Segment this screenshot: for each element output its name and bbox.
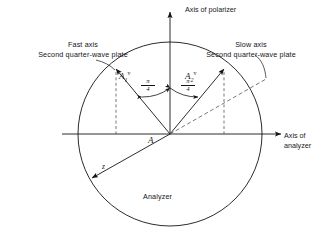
analyzer-label: Analyzer	[143, 192, 172, 201]
angle-label-right: π 4	[181, 78, 195, 93]
angle-right-denominator: 4	[181, 86, 195, 93]
axis-of-analyzer-label-line2: analyzer	[284, 141, 311, 150]
vector-a1-subscript: 1	[125, 77, 128, 83]
vector-a2-superscript: v	[194, 70, 197, 76]
vector-a1-label: A1v	[119, 70, 131, 83]
vector-a2-line	[170, 69, 224, 134]
fast-axis-label-line1: Fast axis	[18, 40, 148, 49]
axis-of-analyzer-label-line1: Axis of	[284, 131, 306, 140]
angle-right-numerator: π	[181, 78, 195, 85]
z-axis-label: z	[102, 163, 105, 171]
fast-axis-label-line2: Second quarter-wave plate	[18, 50, 148, 59]
origin-label: A	[148, 136, 154, 145]
slow-axis-label-line1: Slow axis	[186, 40, 316, 49]
angle-left-numerator: π	[141, 78, 155, 85]
axis-of-polarizer-label: Axis of polarizer	[185, 5, 236, 14]
angle-label-left: π 4	[141, 78, 155, 93]
slow-axis-label-line2: Second quarter-wave plate	[186, 50, 316, 59]
angle-left-denominator: 4	[141, 86, 155, 93]
z-axis-line	[92, 134, 170, 178]
diagram-svg	[0, 0, 326, 237]
vector-a1-superscript: v	[128, 70, 131, 76]
figure-canvas: Axis of polarizer Axis of analyzer Fast …	[0, 0, 326, 237]
